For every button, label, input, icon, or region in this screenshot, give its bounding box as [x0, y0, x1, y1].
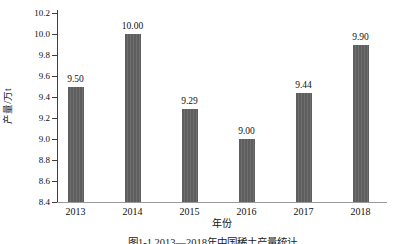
y-tick-label: 9.8 — [18, 50, 50, 61]
figure-caption: 图1-1 2013—2018年中国稀土产量统计 — [0, 236, 401, 244]
bar-2014 — [125, 34, 141, 202]
plot-area: 8.48.68.89.09.29.49.69.810.010.29.502013… — [0, 0, 401, 244]
y-tick — [52, 13, 57, 14]
y-tick — [52, 202, 57, 203]
y-tick-label: 8.4 — [18, 197, 50, 208]
y-axis-line — [57, 10, 58, 202]
bar-2017 — [296, 93, 312, 202]
bar-value-label: 9.29 — [168, 96, 212, 107]
bar-value-label: 9.90 — [339, 32, 383, 43]
x-tick-label: 2013 — [53, 206, 99, 218]
x-tick-label: 2014 — [110, 206, 156, 218]
x-tick-label: 2015 — [167, 206, 213, 218]
y-tick — [52, 160, 57, 161]
bar-2013 — [68, 87, 84, 203]
y-tick — [52, 34, 57, 35]
y-tick — [52, 97, 57, 98]
bar-2015 — [182, 109, 198, 202]
x-axis-title: 年份 — [57, 218, 386, 230]
y-tick-label: 10.0 — [18, 29, 50, 40]
bar-value-label: 10.00 — [111, 21, 155, 32]
bar-2018 — [353, 45, 369, 203]
y-tick — [52, 55, 57, 56]
x-tick-label: 2018 — [338, 206, 384, 218]
bar-value-label: 9.44 — [282, 80, 326, 91]
x-tick-label: 2016 — [224, 206, 270, 218]
x-tick-label: 2017 — [281, 206, 327, 218]
y-tick-label: 9.2 — [18, 113, 50, 124]
y-tick-label: 9.0 — [18, 134, 50, 145]
y-tick-label: 9.6 — [18, 71, 50, 82]
bar-value-label: 9.00 — [225, 126, 269, 137]
y-axis-title: 产量/万t — [1, 51, 15, 161]
y-tick — [52, 118, 57, 119]
y-tick-label: 8.8 — [18, 155, 50, 166]
y-tick — [52, 181, 57, 182]
y-tick — [52, 139, 57, 140]
bar-2016 — [239, 139, 255, 202]
y-tick-label: 9.4 — [18, 92, 50, 103]
figure: 8.48.68.89.09.29.49.69.810.010.29.502013… — [0, 0, 401, 244]
bar-value-label: 9.50 — [54, 74, 98, 85]
y-tick-label: 10.2 — [18, 8, 50, 19]
y-tick-label: 8.6 — [18, 176, 50, 187]
x-axis-line — [57, 202, 387, 203]
